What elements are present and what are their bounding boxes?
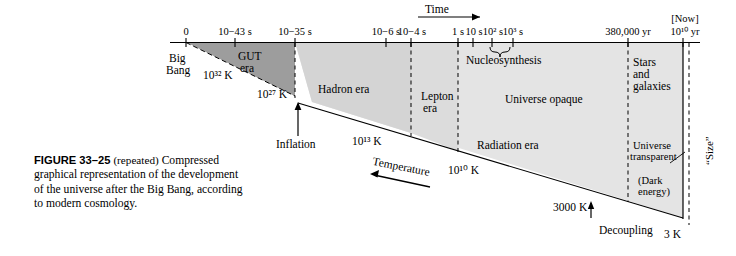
- era-big-bang-line2: Bang: [166, 64, 190, 76]
- era-gut-line1: GUT: [238, 50, 262, 62]
- universe-history-diagram: [0, 0, 736, 256]
- era-hadron: Hadron era: [318, 83, 369, 95]
- temp-label-10e10K: 10¹⁰ K: [448, 164, 479, 176]
- figure-container: 0 10−43 s 10−35 s 10−6 s 10−4 s 1 s 10 s…: [0, 0, 736, 256]
- era-gut-line2: era: [240, 62, 254, 74]
- inflation-label: Inflation: [276, 138, 316, 150]
- era-stars-line1: Stars: [633, 56, 656, 68]
- tick-label-10e-35: 10−35 s: [273, 26, 317, 37]
- tick-label-10e-4: 10−4 s: [392, 26, 432, 37]
- time-axis-label: Time: [425, 3, 449, 15]
- era-nucleosynthesis: Nucleosynthesis: [466, 54, 541, 66]
- temp-label-10e32K: 10³² K: [203, 69, 233, 81]
- temp-label-10e13K: 10¹³ K: [352, 135, 382, 147]
- inflation-arrow-icon: [295, 102, 302, 136]
- figure-caption: FIGURE 33–25 (repeated) Compressed graph…: [34, 154, 246, 211]
- era-stars-line2: and: [633, 68, 650, 80]
- temp-label-3000K: 3000 K: [553, 201, 587, 213]
- tick-label-10e-43: 10−43 s: [213, 26, 257, 37]
- era-universe-opaque: Universe opaque: [505, 93, 583, 105]
- tick-label-0: 0: [179, 26, 193, 37]
- dark-energy-line1: (Dark: [638, 175, 663, 186]
- tick-label-10e10yr: 10¹⁰ yr: [659, 26, 711, 37]
- size-axis-label: “Size”: [703, 136, 715, 165]
- temp-label-3K: 3 K: [664, 228, 681, 240]
- tick-label-1000s: 10³ s: [498, 26, 528, 37]
- era-lepton-line1: Lepton: [421, 90, 454, 102]
- figure-repeated-note: (repeated): [113, 154, 158, 166]
- temp-label-10e27K: 10²⁷ K: [257, 88, 287, 100]
- era-universe-transparent-line1: Universe: [633, 140, 671, 151]
- decoupling-label: Decoupling: [599, 224, 653, 236]
- era-lepton-line2: era: [423, 102, 437, 114]
- dark-energy-line2: energy): [638, 186, 670, 197]
- era-stars-line3: galaxies: [633, 80, 671, 92]
- now-label: [Now]: [659, 13, 711, 24]
- era-radiation: Radiation era: [477, 139, 539, 151]
- decoupling-arrow-icon: [588, 201, 594, 218]
- tick-label-380000yr: 380,000 yr: [594, 26, 662, 37]
- era-big-bang-line1: Big: [169, 52, 186, 64]
- era-universe-transparent-line2: transparent: [630, 151, 677, 162]
- figure-number: FIGURE 33–25: [34, 154, 110, 166]
